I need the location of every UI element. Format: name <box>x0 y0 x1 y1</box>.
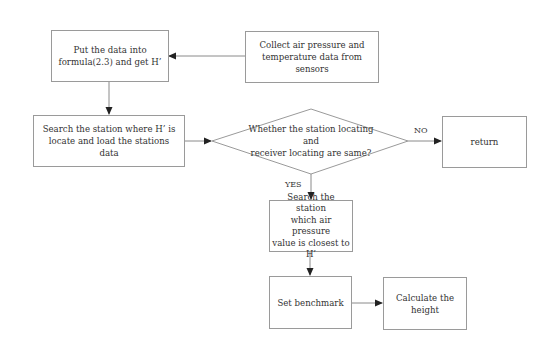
node-return-label: return <box>471 136 499 148</box>
node-put-data-label: Put the data into formula(2.3) and get H… <box>58 44 161 68</box>
node-search-closest: Search the station which air pressure va… <box>269 200 353 252</box>
node-set-benchmark-label: Set benchmark <box>277 297 343 309</box>
edge-label-no: NO <box>414 126 428 135</box>
node-calculate-height-label: Calculate the height <box>396 292 454 316</box>
node-search-closest-label: Search the station which air pressure va… <box>272 192 350 261</box>
node-search-station-label: Search the station where H’ is locate an… <box>38 123 180 159</box>
edge-label-yes: YES <box>285 180 302 189</box>
node-calculate-height: Calculate the height <box>383 277 467 330</box>
node-decision-label: Whether the station locating and receive… <box>240 123 382 159</box>
node-put-data: Put the data into formula(2.3) and get H… <box>51 30 169 82</box>
node-return: return <box>442 116 527 168</box>
node-decision-text: Whether the station locating and receive… <box>240 125 382 157</box>
node-collect-sensor-data: Collect air pressure and temperature dat… <box>245 31 379 83</box>
node-set-benchmark: Set benchmark <box>269 276 352 329</box>
node-search-station: Search the station where H’ is locate an… <box>33 115 185 167</box>
node-collect-sensor-data-label: Collect air pressure and temperature dat… <box>250 39 374 75</box>
